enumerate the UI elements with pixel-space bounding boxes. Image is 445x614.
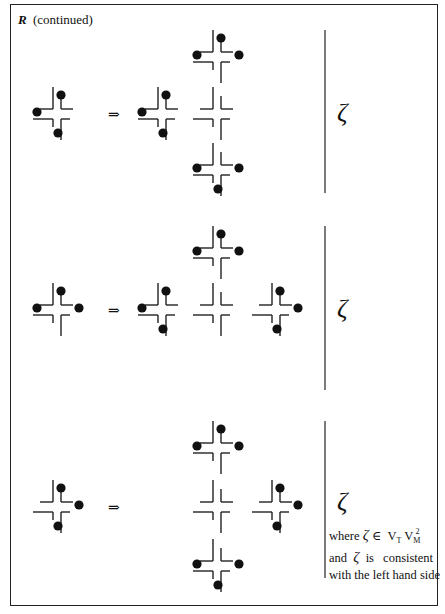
marker-dot-left: [192, 50, 201, 59]
marker-dot-top: [56, 483, 65, 492]
marker-dot-bottom: [213, 580, 222, 589]
rule-3-rhs-crossing-2: [193, 480, 233, 533]
rule-3-rhs-crossing-4: [252, 480, 303, 533]
rule-1-rhs-crossing-3: [193, 87, 233, 140]
rule-2-rhs-crossing-2: [192, 226, 243, 279]
marker-dot-top: [216, 229, 225, 238]
zeta-label-1: ζ: [337, 98, 348, 128]
rule-3-rhs-crossing-1: [192, 421, 243, 474]
rule-2-rhs-crossing-3: [193, 283, 233, 336]
marker-dot-bottom: [213, 184, 222, 193]
marker-dot-right: [293, 500, 302, 509]
marker-dot-bottom: [272, 324, 281, 333]
marker-dot-top: [216, 424, 225, 433]
marker-dot-right: [293, 303, 302, 312]
zeta-label-3: ζ: [337, 487, 348, 517]
marker-dot-bottom: [158, 324, 167, 333]
marker-dot-right: [234, 246, 243, 255]
marker-dot-top: [56, 286, 65, 295]
marker-dot-left: [32, 107, 41, 116]
marker-dot-bottom: [53, 521, 62, 530]
rule-1-rhs-crossing-2: [192, 30, 243, 83]
rule-1-rhs-crossing-1: [137, 87, 178, 140]
rule-2-lhs-crossing: [32, 283, 83, 336]
marker-dot-right: [234, 163, 243, 172]
marker-dot-left: [192, 246, 201, 255]
marker-dot-top: [275, 286, 284, 295]
implies-arrow-1: ⇒: [108, 106, 120, 123]
zeta-condition-note: where ζ ∈ VT VM2 and ζ is consistent wit…: [329, 523, 440, 584]
marker-dot-right: [74, 303, 83, 312]
rule-1-lhs-crossing: [32, 87, 73, 140]
marker-dot-top: [275, 483, 284, 492]
marker-dot-left: [137, 107, 146, 116]
rule-3-lhs-crossing: [33, 480, 84, 533]
marker-dot-right: [74, 500, 83, 509]
rule-3-rhs-crossing-3: [192, 539, 243, 592]
rewrite-rules-diagram: [0, 0, 445, 614]
marker-dot-top: [56, 90, 65, 99]
marker-dot-right: [234, 50, 243, 59]
marker-dot-top: [161, 286, 170, 295]
marker-dot-bottom: [272, 521, 281, 530]
rule-2-rhs-crossing-1: [137, 283, 178, 336]
note-line-1: where ζ ∈ VT VM2: [329, 523, 440, 549]
marker-dot-bottom: [158, 128, 167, 137]
marker-dot-left: [192, 559, 201, 568]
note-line-2: and ζ is consistent: [329, 549, 440, 567]
marker-dot-right: [234, 441, 243, 450]
marker-dot-bottom: [53, 128, 62, 137]
marker-dot-left: [137, 303, 146, 312]
zeta-label-2: ζ: [337, 294, 348, 324]
marker-dot-left: [32, 303, 41, 312]
implies-arrow-3: ⇒: [108, 499, 120, 516]
marker-dot-right: [234, 559, 243, 568]
marker-dot-left: [192, 163, 201, 172]
marker-dot-top: [216, 33, 225, 42]
note-line-3: with the left hand side: [329, 567, 440, 584]
rule-2-rhs-crossing-4: [252, 283, 303, 336]
marker-dot-top: [161, 90, 170, 99]
implies-arrow-2: ⇒: [108, 302, 120, 319]
rule-1-rhs-crossing-4: [192, 143, 243, 196]
marker-dot-left: [192, 441, 201, 450]
